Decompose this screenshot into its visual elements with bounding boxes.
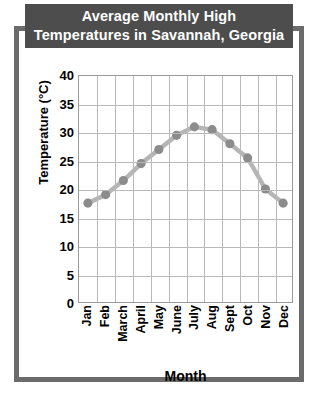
- data-point-marker: [137, 159, 146, 168]
- gridline-vertical: [115, 76, 116, 302]
- figure-container: Average Monthly High Temperatures in Sav…: [0, 0, 318, 404]
- data-point-marker: [261, 184, 270, 193]
- y-axis-tick-label: 35: [60, 96, 74, 111]
- y-axis-tick-label: 10: [60, 239, 74, 254]
- y-axis-tick-label: 5: [67, 267, 74, 282]
- x-axis-tick-label: Feb: [98, 305, 112, 327]
- gridline-horizontal: [79, 219, 292, 220]
- gridline-vertical: [151, 76, 152, 302]
- y-axis-tick-labels: 0510152025303540: [46, 75, 74, 303]
- x-axis-tick-label: May: [152, 305, 166, 329]
- y-axis-tick-label: 15: [60, 210, 74, 225]
- gridline-horizontal: [79, 105, 292, 106]
- x-axis-tick-label: June: [170, 305, 184, 334]
- data-line: [88, 127, 283, 203]
- data-point-marker: [101, 190, 110, 199]
- data-point-marker: [225, 139, 234, 148]
- x-axis-tick-label: Aug: [205, 305, 219, 329]
- y-axis-tick-label: 0: [67, 296, 74, 311]
- x-axis-tick-label: Oct: [241, 305, 255, 326]
- gridline-vertical: [204, 76, 205, 302]
- x-axis-tick-label: April: [134, 305, 148, 333]
- data-point-marker: [119, 176, 128, 185]
- gridline-horizontal: [79, 133, 292, 134]
- x-axis-tick-label: July: [187, 305, 201, 330]
- x-axis-tick-labels: JanFebMarchAprilMayJuneJulyAugSeptOctNov…: [78, 305, 293, 361]
- y-axis-tick-label: 20: [60, 182, 74, 197]
- data-point-marker: [83, 199, 92, 208]
- x-axis-tick-label: March: [116, 305, 130, 342]
- gridline-vertical: [187, 76, 188, 302]
- data-point-marker: [190, 122, 199, 131]
- plot-area: [78, 75, 293, 303]
- y-axis-tick-label: 30: [60, 125, 74, 140]
- x-axis-tick-label: Sept: [223, 305, 237, 332]
- data-point-marker: [154, 145, 163, 154]
- gridline-vertical: [97, 76, 98, 302]
- gridline-horizontal: [79, 247, 292, 248]
- data-series-svg: [79, 76, 292, 302]
- y-axis-tick-label: 25: [60, 153, 74, 168]
- gridline-horizontal: [79, 190, 292, 191]
- gridline-horizontal: [79, 276, 292, 277]
- x-axis-tick-label: Nov: [259, 305, 273, 329]
- x-axis-title: Month: [78, 368, 293, 384]
- gridline-horizontal: [79, 162, 292, 163]
- gridline-vertical: [240, 76, 241, 302]
- data-point-marker: [279, 199, 288, 208]
- y-axis-tick-label: 40: [60, 68, 74, 83]
- gridline-vertical: [258, 76, 259, 302]
- x-axis-tick-label: Dec: [277, 305, 291, 328]
- gridline-vertical: [133, 76, 134, 302]
- gridline-vertical: [222, 76, 223, 302]
- gridline-vertical: [276, 76, 277, 302]
- gridline-vertical: [169, 76, 170, 302]
- chart-plot-wrapper: Temperature (°C) 0510152025303540 JanFeb…: [0, 0, 318, 404]
- x-axis-tick-label: Jan: [80, 305, 94, 327]
